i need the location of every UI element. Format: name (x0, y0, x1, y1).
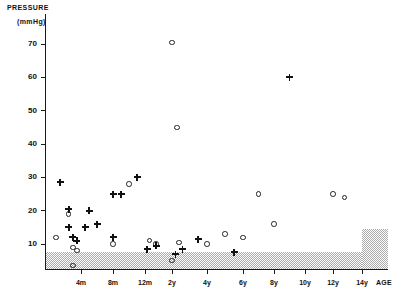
data-point-plus (110, 234, 117, 241)
x-tick (274, 269, 275, 274)
x-tick-label: 4y (192, 279, 222, 286)
x-tick-label: 4m (66, 279, 96, 286)
y-tick (41, 244, 45, 245)
data-point-plus (65, 206, 72, 213)
x-tick-label: 14y (347, 279, 377, 286)
data-point-circle (240, 235, 246, 241)
x-tick-label: 8y (259, 279, 289, 286)
x-tick (333, 269, 334, 274)
x-axis-line (45, 269, 388, 270)
data-point-circle (126, 181, 132, 187)
scatter-chart: PRESSURE (mmHg) AGE 10203040506070 4m8m1… (0, 0, 396, 300)
x-tick-label: 12m (130, 279, 160, 286)
x-tick-label: 2y (157, 279, 187, 286)
data-point-plus (179, 246, 186, 253)
y-tick (41, 144, 45, 145)
data-point-circle (147, 238, 153, 244)
y-tick-label: 60 (13, 72, 37, 81)
y-tick (41, 44, 45, 45)
data-point-circle (256, 191, 262, 197)
data-point-plus (134, 174, 141, 181)
y-axis-title: PRESSURE (7, 4, 49, 11)
x-tick-label: 10y (290, 279, 320, 286)
y-tick (41, 210, 45, 211)
y-tick-label: 20 (13, 206, 37, 215)
data-point-circle (174, 125, 180, 131)
data-point-circle (53, 235, 59, 241)
data-point-plus (94, 221, 101, 228)
data-point-circle (204, 241, 210, 247)
band-step (362, 229, 388, 269)
x-tick-label: 6y (228, 279, 258, 286)
x-tick (207, 269, 208, 274)
data-point-plus (110, 191, 117, 198)
x-axis-title: AGE (376, 279, 392, 286)
data-point-circle (110, 241, 116, 247)
data-point-plus (286, 74, 293, 81)
data-point-plus (172, 251, 179, 258)
data-point-circle (176, 240, 182, 246)
x-tick (243, 269, 244, 274)
data-point-circle (169, 40, 175, 46)
data-point-plus (144, 246, 151, 253)
data-point-plus (153, 242, 160, 249)
data-point-plus (195, 236, 202, 243)
data-point-plus (86, 207, 93, 214)
y-axis-units: (mmHg) (17, 18, 46, 25)
data-point-plus (73, 237, 80, 244)
x-tick (81, 269, 82, 274)
data-point-plus (231, 249, 238, 256)
x-tick (172, 269, 173, 274)
data-point-circle (330, 191, 336, 197)
x-tick (113, 269, 114, 274)
data-point-plus (65, 224, 72, 231)
x-tick (362, 269, 363, 274)
y-tick-label: 10 (13, 239, 37, 248)
data-point-plus (82, 224, 89, 231)
x-tick (305, 269, 306, 274)
data-point-circle (74, 248, 80, 254)
data-point-plus (118, 191, 125, 198)
y-tick-label: 30 (13, 172, 37, 181)
x-tick-label: 8m (98, 279, 128, 286)
x-tick (145, 269, 146, 274)
y-tick (41, 110, 45, 111)
x-tick-label: 12y (318, 279, 348, 286)
y-axis-line (45, 14, 46, 270)
y-tick-label: 40 (13, 139, 37, 148)
data-point-circle (342, 195, 348, 201)
y-tick-label: 70 (13, 39, 37, 48)
band-main (46, 252, 362, 269)
data-point-circle (222, 231, 228, 237)
data-point-circle (271, 221, 277, 227)
y-tick-label: 50 (13, 106, 37, 115)
y-tick (41, 77, 45, 78)
y-tick (41, 177, 45, 178)
data-point-plus (57, 179, 64, 186)
data-point-circle (70, 263, 76, 269)
